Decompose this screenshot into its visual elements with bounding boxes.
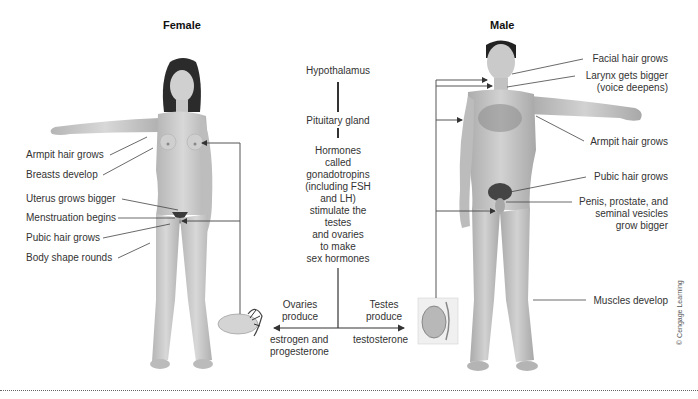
female-label-uterus: Uterus grows bigger — [26, 193, 115, 205]
testis-illustration — [418, 298, 458, 344]
male-label-muscles: Muscles develop — [560, 295, 668, 307]
produce-line: produce — [356, 311, 412, 323]
male-label-armpit: Armpit hair grows — [560, 136, 668, 148]
grow-line: grow bigger — [560, 220, 668, 232]
produce-line: produce — [272, 311, 328, 323]
gonadotropins-line: gonadotropins — [288, 169, 388, 181]
gonadotropins-line: sex hormones — [288, 253, 388, 265]
female-label-body-shape: Body shape rounds — [26, 252, 112, 264]
copyright-credit: © Cengage Learning — [676, 280, 683, 345]
vesicles-line: seminal vesicles — [560, 208, 668, 220]
bottom-divider — [0, 390, 698, 391]
gonadotropins-line: stimulate the — [288, 205, 388, 217]
gonadotropins-line: testes — [288, 217, 388, 229]
pituitary-label: Pituitary gland — [288, 115, 388, 127]
female-title: Female — [163, 19, 201, 31]
larynx-line: Larynx gets bigger — [560, 70, 668, 82]
ovaries-produce-label: Ovaries produce — [272, 299, 328, 323]
gonadotropins-line: and ovaries — [288, 229, 388, 241]
male-label-larynx: Larynx gets bigger (voice deepens) — [560, 70, 668, 94]
female-label-pubic: Pubic hair grows — [26, 232, 100, 244]
estrogen-label: estrogen and progesterone — [270, 334, 329, 358]
female-label-breasts: Breasts develop — [26, 169, 98, 181]
gonadotropins-line: to make — [288, 241, 388, 253]
female-label-armpit: Armpit hair grows — [26, 149, 104, 161]
gonadotropins-line: called — [288, 157, 388, 169]
testes-produce-label: Testes produce — [356, 299, 412, 323]
gonadotropins-line: Hormones — [288, 145, 388, 157]
testes-line: Testes — [356, 299, 412, 311]
female-label-menstruation: Menstruation begins — [26, 212, 116, 224]
gonadotropins-line: and LH) — [288, 193, 388, 205]
progesterone-line: progesterone — [270, 346, 329, 358]
ovaries-line: Ovaries — [272, 299, 328, 311]
testosterone-label: testosterone — [353, 334, 408, 346]
estrogen-line: estrogen and — [270, 334, 329, 346]
male-label-facial-hair: Facial hair grows — [560, 53, 668, 65]
male-label-pubic: Pubic hair grows — [560, 171, 668, 183]
penis-line: Penis, prostate, and — [560, 196, 668, 208]
male-label-penis: Penis, prostate, and seminal vesicles gr… — [560, 196, 668, 232]
male-title: Male — [490, 19, 514, 31]
voice-line: (voice deepens) — [560, 82, 668, 94]
hypothalamus-label: Hypothalamus — [288, 65, 388, 77]
gonadotropins-line: (including FSH — [288, 181, 388, 193]
gonadotropins-text: Hormones called gonadotropins (including… — [288, 145, 388, 265]
